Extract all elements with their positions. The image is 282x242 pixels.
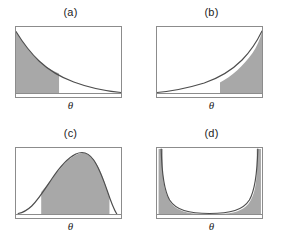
figure-container: (a) θ (b) θ (c) bbox=[0, 0, 282, 242]
panel-b-shaded-region bbox=[220, 32, 262, 94]
panel-a: (a) θ bbox=[0, 0, 141, 121]
panel-d-axis-label: θ bbox=[141, 220, 282, 233]
panel-a-axis-label: θ bbox=[0, 99, 141, 112]
panel-b: (b) θ bbox=[141, 0, 282, 121]
panel-a-title: (a) bbox=[0, 5, 141, 19]
panel-b-svg bbox=[157, 27, 262, 97]
panel-b-axis-label: θ bbox=[141, 99, 282, 112]
panel-a-svg bbox=[16, 27, 121, 97]
panel-d-title: (d) bbox=[141, 126, 282, 140]
panel-d-shaded-region-left bbox=[159, 149, 202, 215]
panel-d-density-curve bbox=[161, 149, 258, 214]
panel-c-svg bbox=[16, 148, 121, 218]
panel-c-title: (c) bbox=[0, 126, 141, 140]
panel-c-axis-label: θ bbox=[0, 220, 141, 233]
panel-c: (c) θ bbox=[0, 121, 141, 242]
panel-b-plot bbox=[156, 26, 263, 98]
panel-a-plot bbox=[15, 26, 122, 98]
panel-c-shaded-region bbox=[41, 153, 109, 215]
panel-d-plot bbox=[156, 147, 263, 219]
panel-d-svg bbox=[157, 148, 262, 218]
panel-c-plot bbox=[15, 147, 122, 219]
panel-d: (d) θ bbox=[141, 121, 282, 242]
panel-b-title: (b) bbox=[141, 5, 282, 19]
